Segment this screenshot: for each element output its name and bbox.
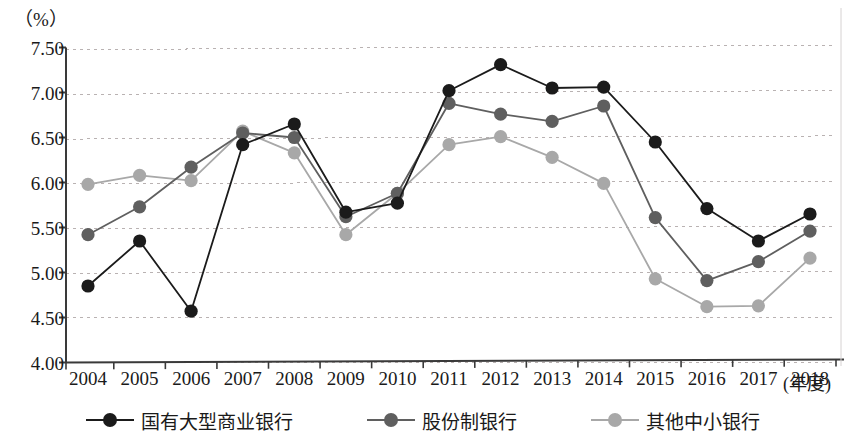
data-point bbox=[442, 138, 455, 151]
x-tick-label: 2017 bbox=[739, 369, 777, 388]
legend-label: 其他中小银行 bbox=[646, 407, 760, 434]
data-point bbox=[133, 200, 146, 213]
x-tick-label: 2011 bbox=[430, 369, 467, 388]
data-point bbox=[133, 234, 146, 247]
x-axis-title: (年度) bbox=[783, 369, 831, 395]
gridline bbox=[66, 181, 832, 184]
gridline bbox=[66, 317, 832, 318]
gridline bbox=[66, 227, 832, 229]
data-point bbox=[288, 146, 301, 159]
x-tick-label: 2009 bbox=[327, 369, 365, 388]
x-axis-line bbox=[66, 360, 844, 363]
y-tick-label: 6.00 bbox=[6, 173, 64, 192]
data-point bbox=[339, 228, 352, 241]
legend-label: 股份制银行 bbox=[422, 407, 517, 434]
series-joint-stock-banks bbox=[81, 97, 816, 288]
data-point bbox=[649, 272, 662, 285]
x-tick-label: 2005 bbox=[121, 369, 159, 388]
x-tick-label: 2008 bbox=[275, 369, 313, 388]
data-point bbox=[288, 117, 301, 130]
data-point bbox=[185, 161, 198, 174]
data-point bbox=[597, 81, 610, 94]
data-point bbox=[546, 81, 559, 94]
x-tick-label: 2015 bbox=[636, 369, 674, 388]
line-chart: （%） 7.507.006.506.005.505.004.504.00 200… bbox=[0, 0, 846, 437]
chart-legend: 国有大型商业银行股份制银行其他中小银行 bbox=[0, 403, 846, 437]
data-point bbox=[700, 202, 713, 215]
data-point bbox=[546, 115, 559, 128]
x-tick-label: 2014 bbox=[585, 369, 623, 388]
data-point bbox=[494, 58, 507, 71]
data-point bbox=[494, 130, 507, 143]
x-tick-label: 2016 bbox=[688, 369, 726, 388]
y-tick-label: 5.50 bbox=[6, 218, 64, 237]
data-point bbox=[185, 174, 198, 187]
data-point bbox=[494, 108, 507, 121]
data-point bbox=[597, 99, 610, 112]
data-point bbox=[546, 151, 559, 164]
data-point bbox=[236, 126, 249, 139]
data-point bbox=[391, 197, 404, 210]
series-line bbox=[88, 103, 810, 280]
x-tick-label: 2006 bbox=[172, 369, 210, 388]
data-point bbox=[752, 255, 765, 268]
data-point bbox=[649, 211, 662, 224]
x-tick-label: 2012 bbox=[482, 369, 520, 388]
data-point bbox=[803, 252, 816, 265]
data-point bbox=[339, 206, 352, 219]
y-tick-label: 4.00 bbox=[6, 353, 64, 372]
y-axis-tick-labels: 7.507.006.506.005.505.004.504.00 bbox=[0, 0, 64, 437]
data-point bbox=[700, 300, 713, 313]
legend-item-joint-stock-banks[interactable]: 股份制银行 bbox=[367, 407, 517, 434]
data-point bbox=[649, 135, 662, 148]
x-tick-label: 2013 bbox=[533, 369, 571, 388]
gridline bbox=[66, 45, 832, 49]
y-tick-label: 4.50 bbox=[6, 308, 64, 327]
data-point bbox=[442, 84, 455, 97]
legend-item-state-owned-large-commercial-banks[interactable]: 国有大型商业银行 bbox=[86, 407, 293, 434]
data-point bbox=[81, 228, 94, 241]
legend-marker-icon bbox=[86, 412, 134, 428]
y-tick-label: 7.00 bbox=[6, 83, 64, 102]
y-tick-label: 5.00 bbox=[6, 263, 64, 282]
x-tick-label: 2007 bbox=[224, 369, 262, 388]
data-point bbox=[81, 279, 94, 292]
data-point bbox=[752, 299, 765, 312]
gridline bbox=[66, 272, 832, 273]
data-point bbox=[700, 274, 713, 287]
x-tick-label: 2004 bbox=[69, 369, 107, 388]
y-tick-label: 6.50 bbox=[6, 128, 64, 147]
x-tick-label: 2010 bbox=[378, 369, 416, 388]
data-point bbox=[81, 178, 94, 191]
legend-marker-icon bbox=[367, 412, 415, 428]
data-point bbox=[236, 138, 249, 151]
data-point bbox=[803, 207, 816, 220]
data-point bbox=[597, 177, 610, 190]
data-point bbox=[185, 305, 198, 318]
data-point bbox=[803, 225, 816, 238]
y-tick-label: 7.50 bbox=[6, 38, 64, 57]
legend-item-other-small-medium-banks[interactable]: 其他中小银行 bbox=[591, 407, 760, 434]
data-point bbox=[752, 234, 765, 247]
legend-marker-icon bbox=[591, 412, 639, 428]
data-point bbox=[133, 169, 146, 182]
legend-label: 国有大型商业银行 bbox=[141, 407, 293, 434]
